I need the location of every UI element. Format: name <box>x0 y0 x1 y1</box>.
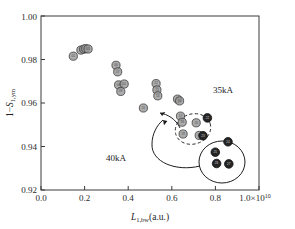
data-point: 16 <box>176 97 184 105</box>
x-tick-label: 0.8 <box>210 193 222 203</box>
svg-text:25: 25 <box>214 150 218 154</box>
data-point: 22 <box>203 114 212 123</box>
data-point: 07 <box>114 68 122 76</box>
svg-text:24: 24 <box>226 140 230 144</box>
y-axis-label: 1−S1,ym <box>5 89 16 117</box>
svg-text:23: 23 <box>201 134 205 138</box>
x-tick-label-last: 1.0×1010 <box>239 193 270 203</box>
scatter-figure: 0.92 0.94 0.96 0.98 1.00 0.0 0.2 0.4 0.6… <box>0 0 295 229</box>
y-axis-ticks <box>41 16 45 190</box>
data-point: 05 <box>84 45 92 53</box>
data-point: 24 <box>224 138 233 147</box>
svg-text:11: 11 <box>142 106 145 110</box>
data-point: 27 <box>225 160 234 169</box>
data-point: 14 <box>154 92 162 100</box>
x-tick-label: 0.0 <box>35 193 47 203</box>
x-tick-label: 0.2 <box>79 193 90 203</box>
data-point: 09 <box>117 87 125 95</box>
annotation-40ka: 40kA <box>106 153 127 163</box>
svg-text:22: 22 <box>206 116 210 120</box>
data-point: 01 <box>69 52 77 60</box>
svg-text:27: 27 <box>227 162 231 166</box>
data-point: 23 <box>199 131 208 140</box>
data-point: 19 <box>179 130 187 138</box>
x-tick-label: 0.4 <box>123 193 135 203</box>
group-ellipse-40ka <box>199 141 245 183</box>
x-axis-label: L1,bw(a.u.) <box>130 212 169 223</box>
series-dark-markers: 22 23 24 25 26 27 <box>199 114 233 169</box>
data-point: 18 <box>178 118 186 126</box>
series-open-markers: 01 02 03 04 05 06 07 08 09 10 11 12 13 1… <box>69 45 203 140</box>
x-tick-label: 0.6 <box>166 193 178 203</box>
svg-text:10: 10 <box>122 82 126 86</box>
x-axis-ticks <box>41 186 259 190</box>
y-tick-label: 1.00 <box>21 12 37 22</box>
x-axis-tick-labels: 0.0 0.2 0.4 0.6 0.8 1.0×1010 <box>35 193 270 203</box>
annotation-35ka: 35kA <box>213 85 234 95</box>
y-tick-label: 0.96 <box>21 98 37 108</box>
y-axis-tick-labels: 0.92 0.94 0.96 0.98 1.00 <box>21 12 37 196</box>
svg-text:19: 19 <box>181 132 185 136</box>
data-point: 10 <box>120 80 128 88</box>
svg-text:16: 16 <box>178 99 182 103</box>
data-point: 25 <box>211 148 220 157</box>
svg-text:05: 05 <box>86 47 90 51</box>
svg-text:14: 14 <box>156 94 160 98</box>
svg-text:12: 12 <box>154 81 158 85</box>
data-point: 11 <box>139 104 147 112</box>
svg-text:01: 01 <box>72 54 76 58</box>
svg-text:17: 17 <box>179 114 183 118</box>
svg-text:07: 07 <box>116 70 120 74</box>
chart-svg: 0.92 0.94 0.96 0.98 1.00 0.0 0.2 0.4 0.6… <box>0 0 295 229</box>
y-tick-label: 0.98 <box>21 55 37 65</box>
y-tick-label: 0.94 <box>21 142 37 152</box>
data-point: 26 <box>212 159 221 168</box>
svg-text:20: 20 <box>194 121 198 125</box>
svg-text:06: 06 <box>114 63 118 67</box>
svg-text:18: 18 <box>180 120 184 124</box>
svg-text:26: 26 <box>215 161 219 165</box>
svg-text:13: 13 <box>155 88 159 92</box>
data-point: 20 <box>192 119 200 127</box>
svg-text:09: 09 <box>119 89 123 93</box>
